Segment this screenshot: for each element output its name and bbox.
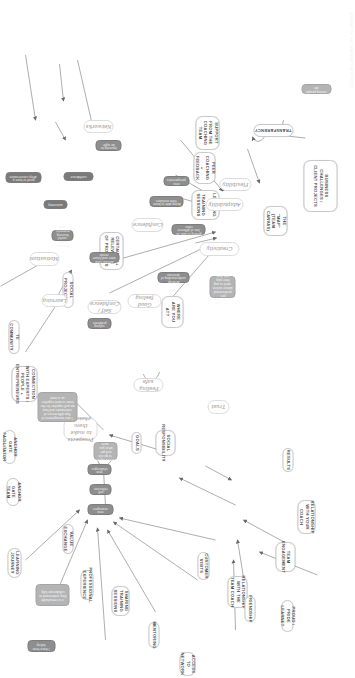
annotation-new-managers: new managers xyxy=(87,504,113,515)
cluster-trust: Trust xyxy=(207,400,229,414)
edge-layer xyxy=(0,0,355,678)
annotation-learn-from-failing: I learn from failing xyxy=(27,640,55,652)
annotation-different-roles: getting to take on lots of different rol… xyxy=(171,224,205,235)
node-anchor-gate-team[interactable]: Anchor gate team xyxy=(6,478,19,506)
annotation-direction: develop understanding of direction xyxy=(157,272,189,283)
annotation-deep-conversation: good to have a deep conversation xyxy=(5,172,41,183)
node-social-responsibility[interactable]: Social responsibility xyxy=(155,430,175,456)
cluster-motivation: Motivation xyxy=(29,252,59,266)
node-the-map-team-canvas[interactable]: The "Map" (Team Canvas) xyxy=(263,206,287,236)
annotation-show-people-advice: I can show people the pre-professional a… xyxy=(209,276,235,298)
cluster-self-confidence: Self / Confidence xyxy=(87,300,121,314)
annotation-management-of-flow: I see management of flow differences of … xyxy=(37,392,77,422)
node-where-are-you-at[interactable]: Where are you at? xyxy=(161,296,183,328)
node-customer-visits[interactable]: Customer visits xyxy=(197,552,209,580)
annotation-solving-problems: solving problems xyxy=(87,318,111,329)
node-transparency[interactable]: Transparency xyxy=(253,124,293,137)
node-access-to-network[interactable]: Access to network xyxy=(179,652,195,676)
node-support-coaching-team[interactable]: Support from the coaching team xyxy=(195,116,219,150)
cluster-adaptability: Adaptability xyxy=(205,198,243,211)
annotation-new-perspectives: new perspectives xyxy=(163,176,189,186)
node-peer-coaching-feedback[interactable]: Peer coaching + feedback xyxy=(193,152,215,184)
cluster-networks: Networks xyxy=(83,120,113,133)
node-sharing-training-sessions[interactable]: Sharing training sessions xyxy=(111,586,129,616)
annotation-collaborate-fully: it is remarkable they understand to coll… xyxy=(35,584,69,606)
node-friendship[interactable]: Friendship xyxy=(244,596,255,622)
node-team-engagement[interactable]: Team engagement xyxy=(275,542,295,572)
node-value-exchange[interactable]: Value exchange xyxy=(62,524,73,554)
annotation-clear-aims: without clear aims and future needs xyxy=(89,252,119,263)
cluster-learning: Learning xyxy=(41,294,67,307)
node-goals[interactable]: Goals xyxy=(131,432,141,454)
cluster-creativity: Creativity xyxy=(199,242,239,256)
mindmap-canvas: MINDMAP OF THE LEARNING EXPERIENCE xyxy=(0,0,355,678)
node-connection-experts[interactable]: Connection with experts / people + entre… xyxy=(11,366,37,402)
annotation-self-reflection: self reflection xyxy=(89,484,111,495)
cluster-feeling-safe: Feeling safe xyxy=(133,378,163,392)
node-learning-journey[interactable]: Learning journey xyxy=(7,548,21,578)
annotation-confidence-chip: confidence xyxy=(63,172,93,181)
cluster-good-feeling: Good feeling xyxy=(127,294,161,308)
node-results[interactable]: Results xyxy=(282,448,293,472)
node-anchor-gate-facilitator[interactable]: Anchor gate facilitator xyxy=(3,430,15,464)
annotation-useful-learning-moments: there are some useful learning moments h… xyxy=(51,230,73,241)
annotation-seeing-people-win: seeing people win xyxy=(301,84,331,94)
annotation-learning-agile: learning to be agile xyxy=(95,140,121,151)
node-professional-experience[interactable]: Professional experience xyxy=(80,570,93,600)
annotation-learn-from-mistakes: being able to learn from mistakes xyxy=(149,196,183,207)
node-business-challenges[interactable]: Business Challenges / Client Projects xyxy=(303,160,337,212)
cluster-flexibility: Flexibility xyxy=(219,178,251,191)
cluster-confidence: Confidence xyxy=(131,218,163,232)
annotation-encouraged-go-out: encouraged to go out and get what you wa… xyxy=(93,442,117,460)
node-proud-pride-learnet[interactable]: Proud / Pride Learnet xyxy=(281,600,293,632)
node-te-community[interactable]: TE Community xyxy=(8,320,19,354)
node-relationship-your-coach[interactable]: Relationship with your coach xyxy=(297,500,315,534)
annotation-new-challenges: new challenges xyxy=(87,464,111,475)
node-mentoring[interactable]: Mentoring xyxy=(148,622,159,648)
annotation-autonomy-chip: autonomy xyxy=(43,200,67,209)
